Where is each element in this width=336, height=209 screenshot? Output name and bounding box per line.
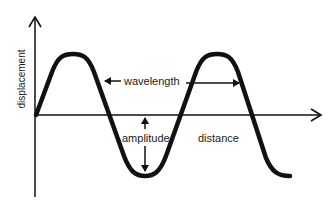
wavelength-indicator: wavelength — [105, 75, 239, 87]
amplitude-label: amplitude — [122, 132, 170, 144]
x-axis-label: distance — [198, 132, 239, 144]
wave-diagram: wavelength amplitude distance displaceme… — [0, 0, 336, 209]
wavelength-label: wavelength — [123, 75, 180, 87]
y-axis-label: displacement — [16, 49, 27, 108]
